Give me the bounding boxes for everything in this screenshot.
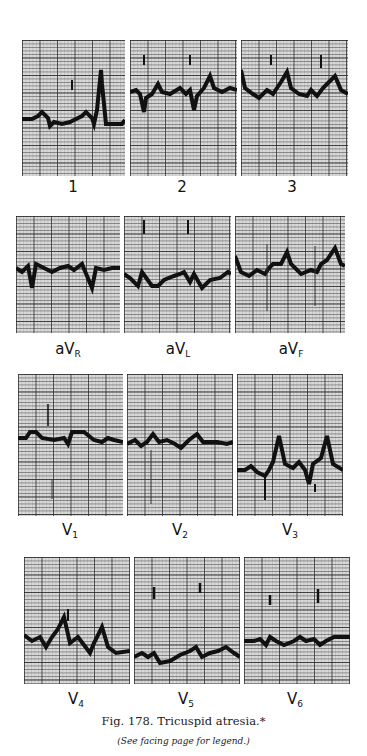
lead-label-subscript: 2 [182,530,188,540]
ecg-trace [235,216,345,333]
lead-label-subscript: 1 [72,530,78,540]
ecg-trace [127,374,233,516]
ecg-strip-lead-v3 [237,374,343,516]
lead-label-v1: V1 [40,521,100,540]
ecg-strip-lead-3 [241,40,348,176]
ecg-trace [16,216,120,333]
figure-caption: Fig. 178. Tricuspid atresia.* [0,714,367,728]
lead-label-v5: V5 [156,690,216,709]
lead-label-text: aV [279,340,298,358]
lead-label-subscript: L [185,349,190,359]
ecg-strip-lead-v1 [18,374,123,516]
lead-label-v6: V6 [265,690,325,709]
figure-legend-note: (See facing page for legend.) [0,736,367,746]
lead-label-subscript: 6 [297,699,303,709]
lead-label-2: 2 [152,178,212,196]
lead-label-text: V [178,690,188,708]
lead-label-text: aV [55,340,74,358]
lead-label-avf: aVF [261,340,321,359]
ecg-strip-lead-v6 [244,557,350,684]
lead-label-subscript: 4 [78,699,84,709]
lead-label-text: V [287,690,297,708]
lead-label-v3: V3 [260,521,320,540]
ecg-trace [124,216,231,333]
ecg-strip-lead-avf [235,216,345,333]
lead-label-subscript: F [298,349,303,359]
ecg-trace [22,40,125,176]
lead-label-text: V [172,521,182,539]
ecg-strip-lead-1 [22,40,125,176]
lead-label-text: 1 [68,178,78,196]
ecg-trace [130,40,237,176]
lead-label-text: 2 [177,178,187,196]
lead-label-1: 1 [43,178,103,196]
lead-label-text: V [62,521,72,539]
ecg-trace [134,557,240,684]
lead-label-text: V [282,521,292,539]
ecg-trace [24,557,130,684]
lead-label-text: aV [166,340,185,358]
lead-label-subscript: 3 [292,530,298,540]
lead-label-avr: aVR [38,340,98,359]
lead-label-text: 3 [287,178,297,196]
ecg-strip-lead-v4 [24,557,130,684]
lead-label-avl: aVL [148,340,208,359]
lead-label-text: V [68,690,78,708]
ecg-strip-lead-avl [124,216,231,333]
lead-label-3: 3 [262,178,322,196]
ecg-strip-lead-2 [130,40,237,176]
ecg-trace [237,374,343,516]
lead-label-subscript: 5 [188,699,194,709]
ecg-strip-lead-avr [16,216,120,333]
ecg-strip-lead-v5 [134,557,240,684]
lead-label-v4: V4 [46,690,106,709]
ecg-trace [244,557,350,684]
lead-label-subscript: R [75,349,81,359]
ecg-trace [241,40,348,176]
ecg-trace [18,374,123,516]
ecg-strip-lead-v2 [127,374,233,516]
lead-label-v2: V2 [150,521,210,540]
